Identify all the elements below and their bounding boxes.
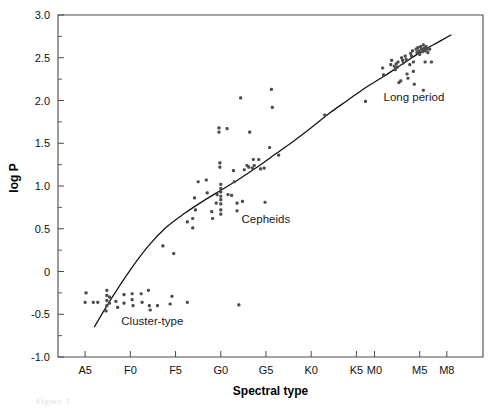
- data-point: [219, 190, 222, 193]
- data-point: [210, 210, 213, 213]
- data-point: [172, 252, 175, 255]
- data-point: [104, 309, 107, 312]
- data-point: [381, 66, 384, 69]
- data-point: [186, 220, 189, 223]
- annotation-cluster-type: Cluster-type: [121, 315, 183, 327]
- data-point: [122, 302, 125, 305]
- x-tick-label: F0: [124, 364, 137, 376]
- data-point: [253, 164, 256, 167]
- data-point: [257, 158, 260, 161]
- data-point: [217, 126, 220, 129]
- data-point: [389, 63, 392, 66]
- data-point: [277, 154, 280, 157]
- data-point: [230, 194, 233, 197]
- y-tick-label: 2.0: [35, 95, 50, 107]
- data-point: [235, 209, 238, 212]
- data-point: [216, 193, 219, 196]
- data-point: [170, 295, 173, 298]
- data-point: [194, 208, 197, 211]
- data-point: [193, 196, 196, 199]
- data-point: [237, 303, 240, 306]
- data-point: [131, 298, 134, 301]
- series-cluster-type: [84, 289, 241, 313]
- data-point: [418, 53, 421, 56]
- y-tick-label: 1.0: [35, 180, 50, 192]
- data-point: [263, 201, 266, 204]
- data-point: [219, 183, 222, 186]
- data-point: [217, 131, 220, 134]
- data-point: [84, 301, 87, 304]
- data-point: [390, 59, 393, 62]
- data-point: [323, 113, 326, 116]
- data-point: [114, 300, 117, 303]
- data-point: [245, 164, 248, 167]
- data-point: [141, 301, 144, 304]
- data-point: [219, 202, 222, 205]
- data-point: [235, 202, 238, 205]
- y-tick-label: 3.0: [35, 9, 50, 21]
- y-tick-label: -1.0: [31, 351, 50, 363]
- data-point: [408, 63, 411, 66]
- data-point: [243, 168, 246, 171]
- data-point: [161, 244, 164, 247]
- data-point: [219, 208, 222, 211]
- data-point: [149, 308, 152, 311]
- data-point: [205, 178, 208, 181]
- x-tick-label: M5: [412, 364, 427, 376]
- data-point: [84, 291, 87, 294]
- data-point: [140, 292, 143, 295]
- data-point: [396, 60, 399, 63]
- data-point: [169, 302, 172, 305]
- fit-curve: [94, 35, 451, 327]
- data-point: [241, 200, 244, 203]
- x-tick-label: A5: [78, 364, 91, 376]
- annotation-long-period: Long period: [384, 91, 445, 103]
- data-point: [147, 289, 150, 292]
- data-point: [430, 60, 433, 63]
- y-tick-label: -0.5: [31, 308, 50, 320]
- data-point: [248, 131, 251, 134]
- data-point: [270, 88, 273, 91]
- data-point: [405, 72, 408, 75]
- data-point: [271, 106, 274, 109]
- data-point: [131, 304, 134, 307]
- x-tick-label: M8: [439, 364, 454, 376]
- data-point: [108, 302, 111, 305]
- data-point: [226, 127, 229, 130]
- data-point: [218, 161, 221, 164]
- x-tick-label: F5: [169, 364, 182, 376]
- data-point: [268, 146, 271, 149]
- data-point: [233, 180, 236, 183]
- data-point: [108, 296, 111, 299]
- data-point: [156, 304, 159, 307]
- data-point: [105, 289, 108, 292]
- x-tick-label: K0: [304, 364, 317, 376]
- data-point: [191, 217, 194, 220]
- y-tick-label: 1.5: [35, 137, 50, 149]
- data-point: [105, 294, 108, 297]
- figure-root: 3.02.52.01.51.00.50-0.5-1.0A5F0F5G0G5K0K…: [0, 0, 501, 415]
- y-tick-label: 0.5: [35, 223, 50, 235]
- x-tick-label: G0: [213, 364, 228, 376]
- data-point: [131, 292, 134, 295]
- data-point: [259, 167, 262, 170]
- data-point: [399, 79, 402, 82]
- series-cepheids: [161, 88, 280, 255]
- annotation-cepheids: Cepheids: [242, 213, 291, 225]
- y-tick-label: 2.5: [35, 52, 50, 64]
- data-point: [412, 70, 415, 73]
- plot-frame: [58, 15, 483, 357]
- data-point: [412, 60, 415, 63]
- data-point: [105, 299, 108, 302]
- scatter-plot: 3.02.52.01.51.00.50-0.5-1.0A5F0F5G0G5K0K…: [0, 0, 501, 415]
- data-point: [364, 100, 367, 103]
- data-point: [218, 166, 221, 169]
- data-point: [219, 198, 222, 201]
- data-point: [428, 48, 431, 51]
- data-point: [219, 195, 222, 198]
- x-tick-label: K5: [350, 364, 363, 376]
- data-point: [186, 301, 189, 304]
- data-point: [405, 58, 408, 61]
- data-point: [406, 77, 409, 80]
- x-axis-title: Spectral type: [233, 384, 309, 398]
